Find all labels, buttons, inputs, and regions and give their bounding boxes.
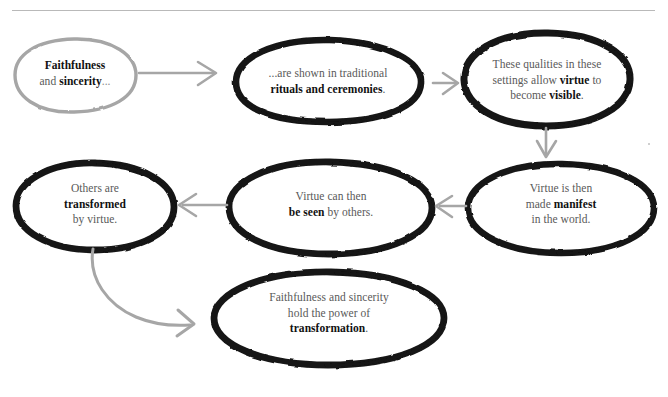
node-label-line: ...are shown in traditional xyxy=(240,66,416,82)
plain-text: to xyxy=(589,74,601,86)
plain-text: made xyxy=(526,198,554,210)
node-label-line: These qualities in these xyxy=(468,57,626,73)
node-label-line: made manifest xyxy=(472,197,650,213)
node-label-line: settings allow virtue to xyxy=(468,73,626,89)
emphasis-text: virtue xyxy=(560,74,590,86)
diagram-canvas: Faithfulnessand sincerity... ...are show… xyxy=(0,0,668,397)
plain-text: These qualities in these xyxy=(493,58,602,70)
node-label-others-transformed: Others aretransformedby virtue. xyxy=(22,181,168,228)
plain-text: ...are shown in traditional xyxy=(269,67,388,79)
node-label-power-of-transformation: Faithfulness and sincerityhold the power… xyxy=(222,290,436,337)
node-label-line: rituals and ceremonies. xyxy=(240,82,416,98)
plain-text: Virtue is then xyxy=(530,182,593,194)
node-label-line: Others are xyxy=(22,181,168,197)
plain-text: become xyxy=(510,89,549,101)
node-label-line: Virtue can then xyxy=(233,189,429,205)
emphasis-text: visible xyxy=(549,89,581,101)
node-label-line: hold the power of xyxy=(222,306,436,322)
plain-text: settings allow xyxy=(493,74,560,86)
emphasis-text: transformed xyxy=(64,198,126,210)
plain-text: in the world. xyxy=(531,213,590,225)
plain-text: . xyxy=(581,89,584,101)
node-label-virtue-visible: These qualities in thesesettings allow v… xyxy=(468,57,626,104)
plain-text: ... xyxy=(102,75,111,87)
emphasis-text: rituals and ceremonies xyxy=(271,83,383,95)
node-label-line: by virtue. xyxy=(22,212,168,228)
plain-text: Faithfulness and sincerity xyxy=(269,291,388,303)
node-label-line: Virtue is then xyxy=(472,181,650,197)
node-label-virtue-manifest: Virtue is thenmade manifestin the world. xyxy=(472,181,650,228)
plain-text: by virtue. xyxy=(73,213,118,225)
plain-text: Virtue can then xyxy=(296,190,367,202)
node-label-line: become visible. xyxy=(468,88,626,104)
emphasis-text: sincerity xyxy=(59,75,102,87)
emphasis-text: Faithfulness xyxy=(45,59,106,71)
node-label-line: transformation. xyxy=(222,321,436,337)
node-label-faithfulness-sincerity: Faithfulnessand sincerity... xyxy=(16,58,134,89)
node-label-line: in the world. xyxy=(472,212,650,228)
arrow-faithfulness-to-rituals xyxy=(139,62,216,85)
arrow-manifest-to-be-seen xyxy=(436,196,466,217)
node-label-line: transformed xyxy=(22,197,168,213)
node-label-line: Faithfulness and sincerity xyxy=(222,290,436,306)
scan-speck xyxy=(648,143,650,145)
plain-text: . xyxy=(383,83,386,95)
plain-text: by others. xyxy=(325,206,374,218)
arrow-virtue-visible-to-manifest xyxy=(537,128,556,157)
plain-text: and xyxy=(39,75,59,87)
emphasis-text: be seen xyxy=(289,206,325,218)
top-rule-divider xyxy=(12,10,655,11)
plain-text: Others are xyxy=(71,182,119,194)
arrow-rituals-to-virtue-visible xyxy=(433,73,458,94)
node-label-line: Faithfulness xyxy=(16,58,134,74)
node-label-line: and sincerity... xyxy=(16,74,134,90)
emphasis-text: transformation xyxy=(290,322,365,334)
plain-text: . xyxy=(365,322,368,334)
arrow-transformed-to-power xyxy=(92,249,194,336)
emphasis-text: manifest xyxy=(554,198,597,210)
plain-text: hold the power of xyxy=(288,307,370,319)
arrow-be-seen-to-transformed xyxy=(179,194,227,216)
node-label-virtue-be-seen: Virtue can thenbe seen by others. xyxy=(233,189,429,220)
node-label-rituals-ceremonies: ...are shown in traditionalrituals and c… xyxy=(240,66,416,97)
node-label-line: be seen by others. xyxy=(233,205,429,221)
